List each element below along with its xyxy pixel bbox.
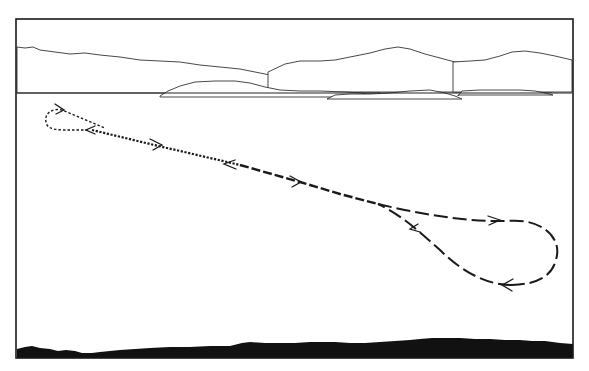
flight-path bbox=[46, 110, 558, 286]
flight-path-illustration bbox=[0, 0, 589, 371]
ridge-far-right bbox=[453, 51, 572, 92]
path-medium-dashed-run bbox=[240, 165, 378, 204]
foreground-shoreline bbox=[17, 338, 573, 358]
path-dotted-run bbox=[92, 130, 240, 165]
path-small-loop bbox=[46, 110, 105, 131]
mountain-ridges bbox=[17, 47, 572, 99]
arrow-icon bbox=[290, 176, 301, 187]
direction-arrows bbox=[55, 104, 513, 291]
